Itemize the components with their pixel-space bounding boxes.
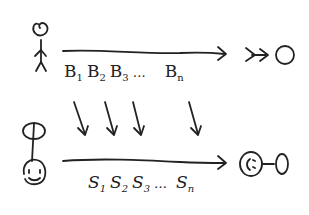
label-s2: S2 xyxy=(110,174,128,194)
top-arrow xyxy=(63,47,226,60)
bottom-arrow xyxy=(63,156,226,169)
label-s3: S3 xyxy=(132,174,150,194)
label-s1: S1 xyxy=(88,174,106,194)
label-b3: B3 xyxy=(110,63,129,83)
label-b1: B1 xyxy=(64,63,83,83)
diagram-canvas: B1 B2 B3 … Bn S1 S2 S3 … Sn xyxy=(0,0,309,215)
label-sn: Sn xyxy=(176,174,194,194)
smiley-face-icon xyxy=(23,123,45,184)
receiver-eye-icon xyxy=(246,46,294,64)
label-bn: Bn xyxy=(165,63,184,83)
bottom-labels: S1 S2 S3 … Sn xyxy=(88,174,194,194)
sad-face-icon xyxy=(240,152,288,176)
mapping-arrows xyxy=(74,102,201,135)
stick-figure-icon xyxy=(33,23,47,71)
label-ellipsis: … xyxy=(133,66,147,79)
label-b2: B2 xyxy=(87,63,106,83)
top-labels: B1 B2 B3 … Bn xyxy=(64,63,184,83)
label-ellipsis: … xyxy=(154,177,168,190)
